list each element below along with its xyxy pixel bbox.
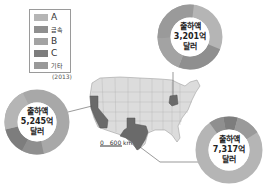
label-line: 출하액 [170,22,210,32]
scale-label: 0 600 km [100,139,132,146]
label-unit: 달러 [17,127,57,137]
donut-label-texas: 출하액 7,317억 달러 [209,135,249,165]
label-line: 출하액 [17,107,57,117]
scale-zero: 0 [100,139,104,146]
state-ohio [169,95,178,106]
shipment-value: 3,201억 [170,32,210,42]
scale-distance: 600 km [110,139,133,146]
shipment-value: 5,245억 [17,117,57,127]
donut-label-ohio: 출하액 3,201억 달러 [170,22,210,52]
shipment-value: 7,317억 [209,145,249,155]
label-line: 출하액 [209,135,249,145]
donut-label-california: 출하액 5,245억 달러 [17,107,57,137]
leader-line-texas [140,147,198,162]
label-unit: 달러 [209,155,249,165]
leader-line-california [68,106,92,112]
label-unit: 달러 [170,42,210,52]
